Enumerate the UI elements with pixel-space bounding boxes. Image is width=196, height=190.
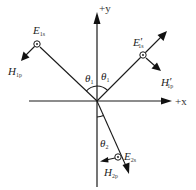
- reflected-e-field-label: E′1s: [132, 35, 144, 49]
- reflected-h-field-label: H′1p: [160, 75, 173, 89]
- incident-e-field-dot-icon: [36, 43, 38, 45]
- transmitted-angle-arc: [97, 116, 104, 117]
- reflected-angle-arc: [97, 86, 108, 90]
- transmitted-h-field-label: H2p: [103, 166, 118, 179]
- incident-e-field-label: E1s: [32, 24, 46, 37]
- y-axis-label: +y: [99, 2, 111, 14]
- transmitted-ray-line: [97, 101, 126, 166]
- reflected-ray: E′1s H′1p: [97, 31, 173, 101]
- wave-interface-diagram: +x +y E1s H1p E′1s H′1: [0, 0, 196, 190]
- x-axis: +x: [29, 95, 187, 107]
- incident-h-field-label: H1p: [7, 65, 22, 78]
- incident-h-field-line: [26, 46, 35, 55]
- reflected-h-field-line: [146, 58, 155, 66]
- x-axis-arrowhead: [161, 98, 172, 105]
- reflected-angle-label: θ1: [101, 70, 109, 83]
- x-axis-label: +x: [175, 95, 187, 107]
- transmitted-ray-arrowhead: [123, 163, 130, 175]
- reflected-e-field-dot-icon: [142, 54, 144, 56]
- incident-angle-label: θ1: [85, 72, 93, 85]
- incident-angle-arc: [86, 86, 97, 91]
- transmitted-e-field-dot-icon: [117, 156, 119, 158]
- transmitted-e-field-label: E2s: [123, 150, 137, 163]
- transmitted-h-field-arrowhead: [100, 157, 109, 163]
- transmitted-angle-label: θ2: [100, 137, 108, 150]
- reflected-ray-line: [97, 37, 161, 101]
- incident-ray: E1s H1p: [7, 24, 97, 101]
